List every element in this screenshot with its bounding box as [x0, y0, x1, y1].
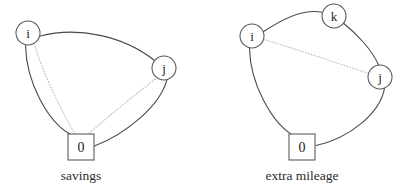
panel-savings: i j 0 savings — [16, 21, 176, 183]
edge-savings-j-to-depot-dotted — [89, 78, 158, 135]
edge-extra-i-to-j-dotted — [264, 40, 369, 74]
node-extra-i-label: i — [250, 29, 254, 44]
caption-extra-mileage: extra mileage — [265, 168, 338, 183]
node-extra-depot-label: 0 — [299, 140, 306, 155]
edge-extra-i-to-k-solid — [263, 12, 322, 32]
node-extra-k-label: k — [331, 9, 338, 24]
edge-savings-i-to-j-solid — [40, 32, 155, 60]
node-savings-depot-label: 0 — [78, 140, 85, 155]
node-extra-j-label: j — [377, 70, 382, 85]
tsp-construction-heuristics-diagram: i j 0 savings i — [0, 0, 405, 194]
caption-savings: savings — [61, 168, 102, 183]
edge-extra-k-to-j-solid — [344, 23, 379, 65]
node-savings-i-label: i — [26, 26, 30, 41]
edge-savings-i-to-depot-solid — [26, 45, 71, 134]
edge-savings-j-to-depot-solid — [95, 80, 168, 146]
edge-extra-j-to-depot-solid — [316, 88, 385, 145]
panel-extra-mileage: i k j 0 extra mileage — [240, 4, 392, 183]
edge-extra-i-to-depot-solid — [250, 48, 292, 134]
node-savings-j-label: j — [161, 61, 166, 76]
figure-container: i j 0 savings i — [0, 0, 405, 194]
